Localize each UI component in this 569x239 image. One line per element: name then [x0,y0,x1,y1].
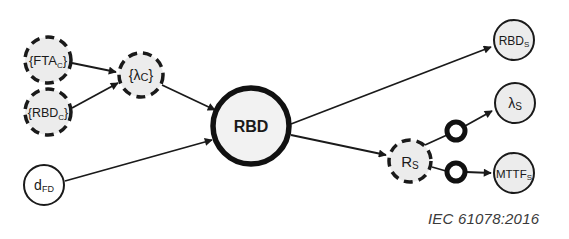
node-label: RBD [499,34,525,48]
node-lambda-c[interactable]: {λC} [119,53,163,97]
node-r-s[interactable]: RS [389,140,431,182]
edge-r-s-to-ring-2 [432,167,446,171]
diagram-canvas: {FTAC} {RBDC} {λC} dFD RBD RS RBDS λS MT… [0,0,569,239]
edge-ring-2-to-mttf-s [466,172,491,173]
edge-d-fd-to-rbd [65,140,212,181]
figure-caption: IEC 61078:2016 [428,210,539,227]
ring-icon [447,163,465,181]
edge-rbd-to-r-s [291,135,386,155]
node-d-fd[interactable]: dFD [24,165,64,205]
node-lambda-s[interactable]: λS [495,83,535,123]
ring-icon [447,122,465,140]
svg-text:{FTAC}: {FTAC} [29,53,68,70]
node-label: d [34,177,42,193]
node-label: MTTF [496,168,527,180]
edge-rbd-c-to-lambda-c [72,83,118,108]
edge-lambda-c-to-rbd [162,85,215,110]
node-rbd-s[interactable]: RBDS [494,20,534,60]
node-rbd[interactable]: RBD [213,88,289,164]
node-label: R [401,153,412,170]
node-rbd-c[interactable]: {RBDC} [25,89,71,135]
edge-ring-1-to-lambda-s [465,111,492,126]
node-label: {FTA [29,53,57,68]
node-fta-c[interactable]: {FTAC} [25,37,71,83]
node-mttf-s[interactable]: MTTFS [494,153,534,193]
node-label: RBD [234,118,269,135]
edge-r-s-to-ring-1 [425,135,447,145]
node-label: {RBD [28,106,59,120]
edge-rbd-to-rbd-s [291,47,491,124]
node-label: λ [508,95,515,111]
svg-text:MTTFS: MTTFS [496,168,532,182]
edge-fta-c-to-lambda-c [72,63,116,72]
node-label: {λ [129,67,141,83]
